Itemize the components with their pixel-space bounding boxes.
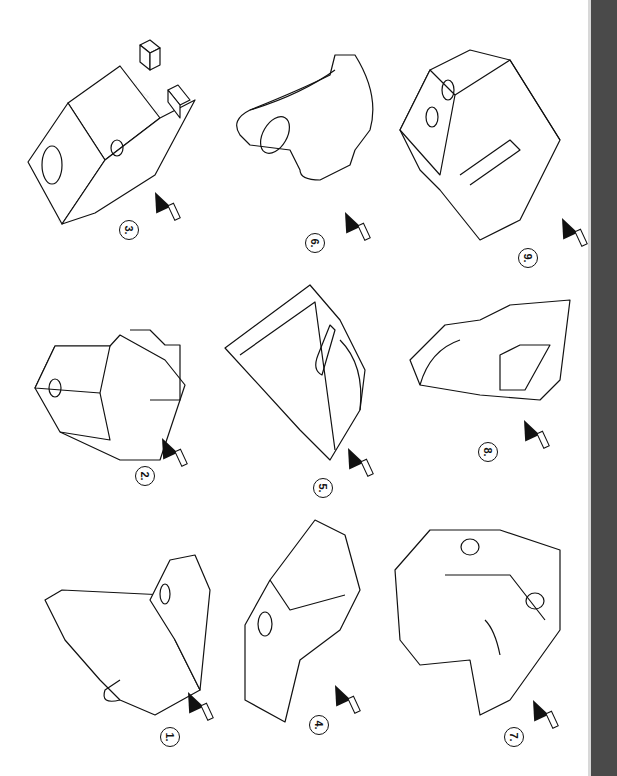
figure-3-drawing xyxy=(28,40,195,225)
arrow-icon-8 xyxy=(517,417,549,449)
arrow-icon-9 xyxy=(555,215,587,247)
figure-label-8: 8. xyxy=(478,442,498,462)
isometric-figures xyxy=(0,0,590,776)
figure-5-drawing xyxy=(225,285,365,460)
figure-label-1: 1. xyxy=(160,727,180,747)
figure-label-3: 3. xyxy=(119,220,139,240)
figure-1-drawing xyxy=(45,555,210,715)
arrow-icon-6 xyxy=(338,209,370,241)
figure-label-2: 2. xyxy=(135,466,155,486)
figure-9-drawing xyxy=(400,50,560,240)
arrow-icon-7 xyxy=(526,697,558,729)
figure-label-6: 6. xyxy=(305,233,325,253)
figure-4-drawing xyxy=(245,520,360,722)
arrow-icon-3 xyxy=(148,189,180,221)
figure-7-drawing xyxy=(395,530,560,715)
arrow-icon-4 xyxy=(328,682,360,714)
figure-label-4: 4. xyxy=(309,715,329,735)
figure-8-drawing xyxy=(410,300,570,400)
figure-label-7: 7. xyxy=(504,727,524,747)
figure-label-9: 9. xyxy=(518,248,538,268)
figure-6-drawing xyxy=(237,55,373,180)
arrow-icon-5 xyxy=(341,445,373,477)
figure-label-5: 5. xyxy=(313,478,333,498)
scanner-edge-strip xyxy=(591,0,617,776)
